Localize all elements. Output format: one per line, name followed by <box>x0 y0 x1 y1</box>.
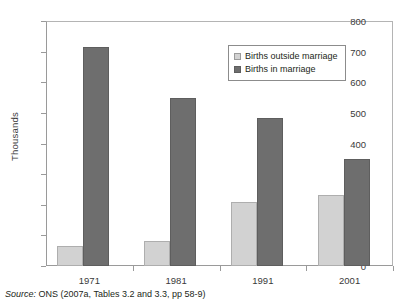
source-note: Source: ONS (2007a, Tables 3.2 and 3.3, … <box>5 289 205 299</box>
y-tick-mark <box>41 235 46 236</box>
x-tick-label: 2001 <box>310 275 390 286</box>
y-tick-mark <box>41 113 46 114</box>
y-tick-label: 400 <box>326 138 366 149</box>
bar-1981-outside-marriage <box>144 241 170 266</box>
bar-2001-in-marriage <box>344 159 370 266</box>
legend-swatch-inside-icon <box>234 66 241 73</box>
x-tick-mark <box>220 266 221 271</box>
y-axis <box>0 0 46 305</box>
top-clipped-text <box>6 0 336 8</box>
y-tick-mark <box>41 205 46 206</box>
bar-1971-outside-marriage <box>57 246 83 266</box>
legend-swatch-outside-icon <box>234 53 241 60</box>
x-tick-label: 1971 <box>49 275 129 286</box>
x-tick-label: 1981 <box>136 275 216 286</box>
bar-1981-in-marriage <box>170 98 196 266</box>
y-tick-mark <box>41 21 46 22</box>
bar-2001-outside-marriage <box>318 195 344 266</box>
y-tick-mark <box>41 144 46 145</box>
y-tick-mark <box>41 52 46 53</box>
x-tick-label: 1991 <box>223 275 303 286</box>
y-tick-label: 500 <box>326 107 366 118</box>
x-tick-mark <box>393 266 394 271</box>
source-text: ONS (2007a, Tables 3.2 and 3.3, pp 58-9) <box>36 289 205 299</box>
y-tick-mark <box>41 266 46 267</box>
bar-1991-outside-marriage <box>231 202 257 266</box>
legend-item-inside: Births in marriage <box>234 63 338 76</box>
legend-label-outside: Births outside marriage <box>245 50 338 63</box>
chart-figure: Thousands 010020030040050060070080019711… <box>0 0 420 305</box>
x-tick-mark <box>306 266 307 271</box>
source-prefix: Source: <box>5 289 36 299</box>
y-axis-title: Thousands <box>9 97 20 177</box>
y-tick-mark <box>41 174 46 175</box>
bar-1991-in-marriage <box>257 118 283 266</box>
legend-item-outside: Births outside marriage <box>234 50 338 63</box>
x-tick-mark <box>133 266 134 271</box>
y-tick-label: 800 <box>326 16 366 27</box>
bar-1971-in-marriage <box>83 47 109 266</box>
legend-label-inside: Births in marriage <box>245 63 316 76</box>
chart-legend: Births outside marriage Births in marria… <box>228 45 346 81</box>
y-tick-mark <box>41 82 46 83</box>
